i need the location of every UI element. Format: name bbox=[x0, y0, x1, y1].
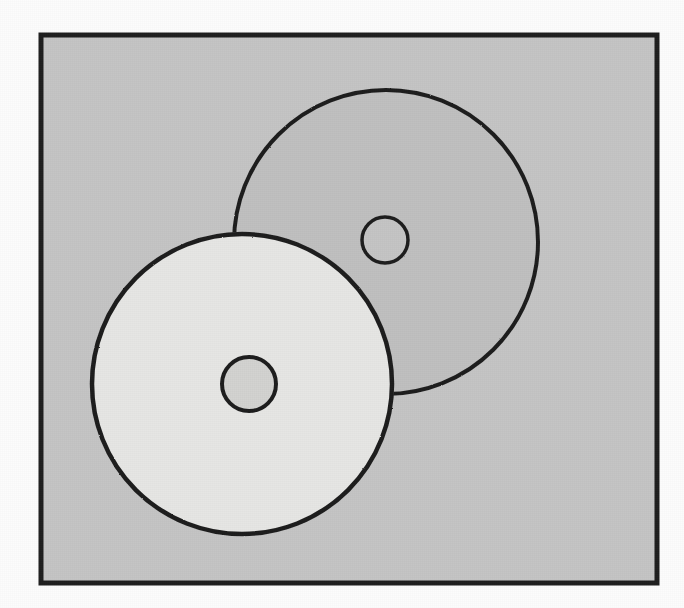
back-disc-hole bbox=[362, 217, 408, 263]
bordered-panel bbox=[38, 32, 660, 586]
figure-canvas bbox=[0, 0, 684, 608]
illustration-svg bbox=[38, 32, 660, 586]
front-disc-hole bbox=[222, 357, 276, 411]
